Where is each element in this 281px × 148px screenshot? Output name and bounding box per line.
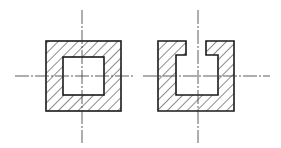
technical-drawing [0, 0, 281, 148]
slotted-channel-section [143, 10, 270, 143]
hollow-square-section [15, 10, 135, 143]
